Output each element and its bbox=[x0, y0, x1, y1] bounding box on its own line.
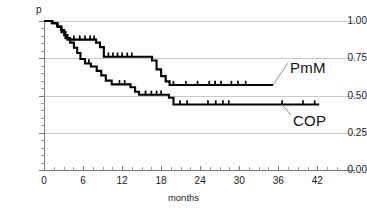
step-path bbox=[44, 21, 319, 104]
x-axis-title: months bbox=[0, 192, 367, 203]
series-label-pmm: PmM bbox=[290, 60, 326, 75]
survival-curves bbox=[0, 0, 367, 210]
kaplan-meier-figure: p 0.000.250.500.751.00 06121824303642 Pm… bbox=[0, 0, 367, 210]
leader-line-pmm bbox=[273, 63, 288, 85]
leader-line-cop bbox=[282, 104, 291, 115]
series-label-cop: COP bbox=[293, 113, 326, 128]
series-cop bbox=[44, 21, 319, 105]
